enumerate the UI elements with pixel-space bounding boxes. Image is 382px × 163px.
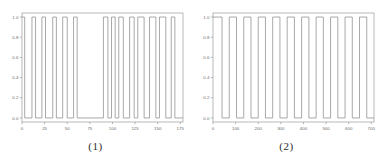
plot-frame	[22, 13, 183, 122]
y-tick-label: 0.2	[203, 95, 210, 100]
y-tick-label: 0.0	[12, 116, 19, 121]
plot-area-1: 02550751001251501750.00.20.40.60.81.0	[0, 0, 191, 140]
y-tick-label: 0.2	[12, 95, 19, 100]
x-tick-label: 600	[345, 126, 353, 131]
x-tick-label: 100	[109, 126, 117, 131]
y-tick-label: 0.0	[203, 116, 210, 121]
series-line-binary-signal-1	[22, 17, 183, 118]
plot-area-2: 01002003004005006007000.00.20.40.60.81.0	[191, 0, 382, 140]
y-tick-label: 0.4	[203, 75, 210, 80]
y-tick-label: 0.8	[203, 35, 210, 40]
figure-panel-2: 01002003004005006007000.00.20.40.60.81.0…	[191, 0, 382, 163]
plot-frame	[213, 13, 374, 122]
y-tick-label: 0.4	[12, 75, 19, 80]
figure-row: 02550751001251501750.00.20.40.60.81.0 (1…	[0, 0, 382, 163]
y-tick-label: 1.0	[12, 15, 19, 20]
series-line-binary-signal-2	[213, 17, 374, 118]
panel-caption-1: (1)	[0, 140, 191, 152]
x-tick-label: 75	[87, 126, 92, 131]
square-wave-chart-1: 02550751001251501750.00.20.40.60.81.0	[0, 0, 191, 140]
x-tick-label: 150	[154, 126, 162, 131]
y-tick-label: 0.6	[12, 55, 19, 60]
y-tick-label: 0.8	[12, 35, 19, 40]
panel-caption-2: (2)	[191, 140, 382, 152]
x-tick-label: 125	[131, 126, 139, 131]
x-tick-label: 50	[65, 126, 70, 131]
x-tick-label: 0	[212, 126, 215, 131]
x-tick-label: 25	[42, 126, 47, 131]
y-tick-label: 0.6	[203, 55, 210, 60]
x-tick-label: 200	[255, 126, 263, 131]
x-tick-label: 0	[21, 126, 24, 131]
x-tick-label: 175	[177, 126, 185, 131]
x-tick-label: 100	[232, 126, 240, 131]
square-wave-chart-2: 01002003004005006007000.00.20.40.60.81.0	[191, 0, 382, 140]
figure-panel-1: 02550751001251501750.00.20.40.60.81.0 (1…	[0, 0, 191, 163]
x-tick-label: 400	[300, 126, 308, 131]
x-tick-label: 300	[277, 126, 285, 131]
x-tick-label: 500	[322, 126, 330, 131]
y-tick-label: 1.0	[203, 15, 210, 20]
x-tick-label: 700	[368, 126, 376, 131]
